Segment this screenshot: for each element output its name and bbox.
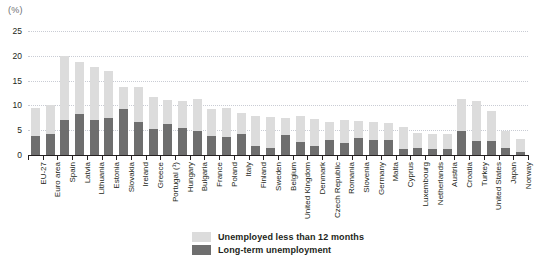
bar-segment-short-term (325, 122, 334, 140)
x-label-germany: Germany (377, 162, 386, 195)
x-tick (499, 155, 500, 160)
bar-segment-short-term (60, 56, 69, 120)
x-label-eu-27: EU-27 (39, 162, 48, 185)
bar-segment-short-term (281, 118, 290, 135)
bar-group (207, 109, 216, 155)
x-tick (381, 155, 382, 160)
bar-group (178, 101, 187, 155)
y-tick-label-0: 0 (2, 150, 22, 160)
bar-group (104, 71, 113, 155)
bar-segment-short-term (413, 133, 422, 148)
x-label-luxembourg: Luxembourg (421, 162, 430, 206)
bar-segment-long-term (354, 138, 363, 155)
x-label-poland: Poland (230, 162, 239, 187)
bar-segment-long-term (90, 120, 99, 155)
x-label-slovakia: Slovakia (127, 162, 136, 192)
x-tick (72, 155, 73, 160)
bar-segment-short-term (340, 120, 349, 143)
x-tick (190, 155, 191, 160)
bar-segment-long-term (310, 146, 319, 155)
bar-group (222, 108, 231, 155)
bar-group (46, 105, 55, 155)
x-tick (293, 155, 294, 160)
bar-group (60, 56, 69, 155)
bar-segment-long-term (193, 131, 202, 155)
x-label-bulgaria: Bulgaria (200, 162, 209, 191)
y-tick-label-15: 15 (2, 76, 22, 86)
bar-segment-long-term (325, 140, 334, 155)
legend-swatch-short-term (192, 232, 211, 242)
x-label-latvia: Latvia (83, 162, 92, 183)
bar-segment-long-term (237, 134, 246, 155)
legend-label: Long-term unemployment (218, 245, 331, 255)
bar-group (399, 127, 408, 155)
x-tick (307, 155, 308, 160)
bars-layer (28, 31, 528, 155)
bar-segment-long-term (104, 118, 113, 155)
bar-group (119, 87, 128, 155)
bar-group (457, 99, 466, 155)
bar-segment-long-term (413, 148, 422, 155)
x-label-united-states: United States (494, 162, 503, 210)
x-label-ireland: Ireland (141, 162, 150, 186)
x-label-cyprus: Cyprus (406, 162, 415, 187)
bar-group (251, 116, 260, 155)
bar-segment-short-term (310, 119, 319, 146)
x-tick (322, 155, 323, 160)
bar-segment-long-term (207, 136, 216, 155)
bar-segment-long-term (178, 128, 187, 155)
bar-segment-short-term (75, 62, 84, 114)
bar-segment-short-term (149, 97, 158, 129)
bar-group (266, 117, 275, 155)
bar-group (340, 120, 349, 155)
x-label-romania: Romania (347, 162, 356, 194)
bar-segment-long-term (134, 122, 143, 155)
x-tick (116, 155, 117, 160)
x-label-netherlands: Netherlands (436, 162, 445, 205)
bar-segment-long-term (266, 148, 275, 155)
bar-segment-long-term (75, 114, 84, 155)
bar-group (310, 119, 319, 155)
x-tick (528, 155, 529, 160)
bar-segment-short-term (443, 134, 452, 149)
x-tick (175, 155, 176, 160)
bar-group (134, 87, 143, 155)
bar-group (384, 123, 393, 155)
bar-group (413, 133, 422, 155)
x-tick (425, 155, 426, 160)
bar-segment-long-term (119, 109, 128, 155)
bar-segment-long-term (501, 148, 510, 155)
bar-group (237, 113, 246, 155)
x-label-united-kingdom: United Kingdom (303, 162, 312, 219)
y-tick-label-5: 5 (2, 125, 22, 135)
bar-segment-long-term (384, 140, 393, 155)
x-tick (337, 155, 338, 160)
legend-item-short-term: Unemployed less than 12 months (192, 232, 364, 242)
bar-segment-long-term (457, 131, 466, 155)
x-label-spain: Spain (68, 162, 77, 182)
x-tick (410, 155, 411, 160)
bar-group (193, 99, 202, 155)
bar-group (31, 108, 40, 155)
x-label-greece: Greece (156, 162, 165, 188)
x-tick (234, 155, 235, 160)
bar-segment-short-term (501, 131, 510, 148)
x-tick (278, 155, 279, 160)
bar-segment-long-term (487, 141, 496, 155)
x-tick (146, 155, 147, 160)
x-label-denmark: Denmark (318, 162, 327, 194)
x-label-italy: Italy (244, 162, 253, 177)
bar-group (501, 131, 510, 155)
bar-segment-short-term (472, 101, 481, 141)
x-tick (219, 155, 220, 160)
x-tick (57, 155, 58, 160)
x-tick (160, 155, 161, 160)
bar-segment-long-term (60, 120, 69, 155)
bar-group (163, 100, 172, 155)
bar-segment-short-term (237, 113, 246, 134)
x-label-lithuania: Lithuania (97, 162, 106, 194)
x-label-czech-republic: Czech Republic (333, 162, 342, 218)
bar-segment-short-term (369, 122, 378, 140)
x-tick (204, 155, 205, 160)
bar-segment-long-term (46, 134, 55, 155)
